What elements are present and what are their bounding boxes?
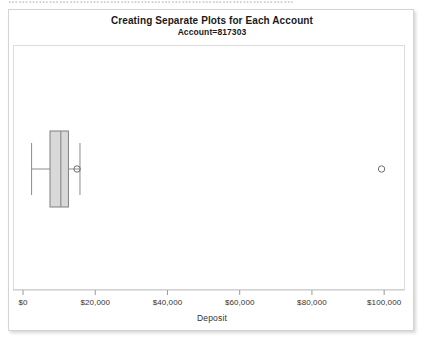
chart-title-block: Creating Separate Plots for Each Account… (9, 14, 415, 38)
box-iqr (50, 131, 68, 207)
x-tick-label-2: $40,000 (153, 298, 183, 307)
x-tick-label-0: $0 (18, 298, 27, 307)
page-title: Creating Separate Plots for Each Account (9, 14, 415, 27)
x-tick-label-4: $80,000 (297, 298, 327, 307)
x-tick-label-1: $20,000 (80, 298, 110, 307)
report-panel: Creating Separate Plots for Each Account… (8, 9, 414, 331)
chart-subtitle: Account=817303 (9, 27, 415, 38)
x-axis-tick-labels: $0$20,000$40,000$60,000$80,000$100,000 (9, 298, 415, 312)
x-tick-label-3: $60,000 (225, 298, 255, 307)
boxplot-group (32, 131, 385, 207)
axis-tick-group (13, 290, 405, 295)
outlier-point-0 (378, 166, 384, 172)
plot-frame (13, 45, 405, 290)
clipped-header-text: ………………………………………………………………………… (8, 0, 294, 5)
boxplot-canvas (14, 46, 406, 291)
clipped-header-strip: ………………………………………………………………………… (0, 0, 428, 9)
x-axis-title: Deposit (9, 313, 415, 323)
x-tick-label-5: $100,000 (367, 298, 401, 307)
